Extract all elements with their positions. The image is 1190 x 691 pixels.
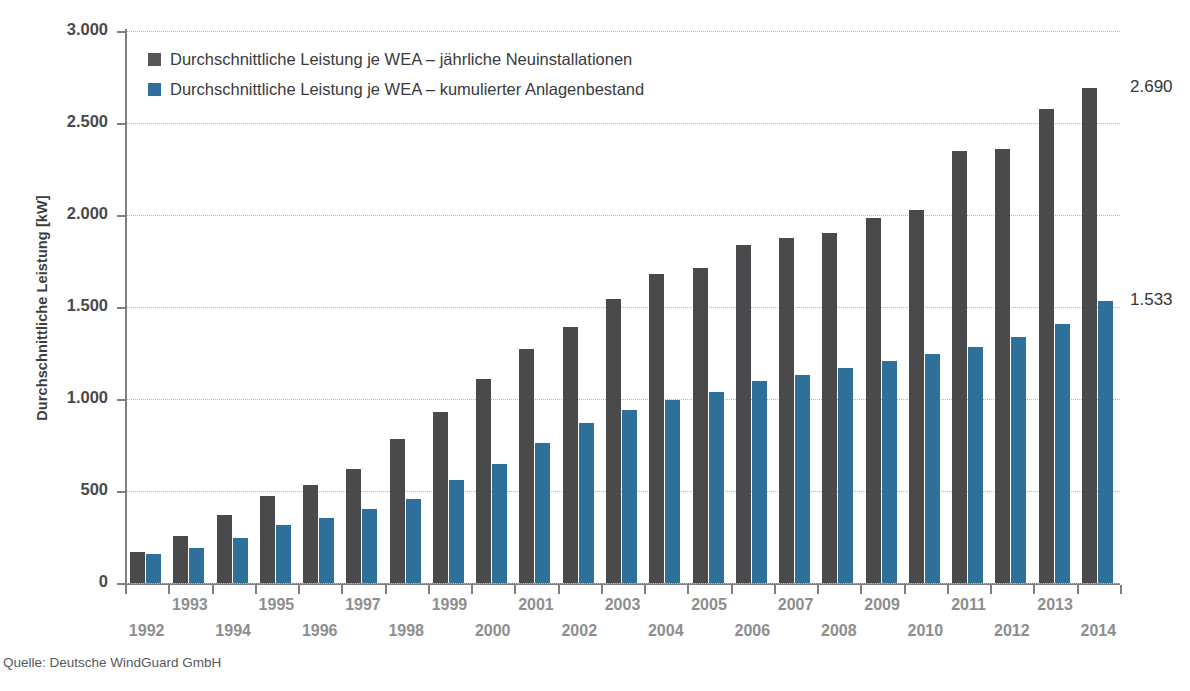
x-axis-tick-label: 2009 [842, 596, 922, 614]
y-axis-tick-label: 1.000 [18, 388, 108, 407]
y-axis-tick-label: 0 [18, 572, 108, 591]
y-axis-tick-label: 2.500 [18, 112, 108, 131]
x-axis-tick-label: 1994 [193, 622, 273, 640]
bar-2004-series-1 [665, 400, 680, 583]
y-axis-tick-label: 2.000 [18, 204, 108, 223]
bar-2011-series-0 [952, 151, 967, 583]
bar-2007-series-0 [779, 238, 794, 583]
x-axis-tick-label: 2007 [756, 596, 836, 614]
source-note: Quelle: Deutsche WindGuard GmbH [3, 655, 221, 670]
y-axis-tick [117, 123, 126, 125]
x-axis-tick-label: 2008 [799, 622, 879, 640]
gridline [125, 215, 1120, 216]
y-axis-tick [117, 399, 126, 401]
x-axis-tick-label: 1996 [280, 622, 360, 640]
x-axis-tick [428, 585, 430, 594]
x-axis-tick [471, 585, 473, 594]
bar-1998-series-0 [390, 439, 405, 583]
x-axis-tick [644, 585, 646, 594]
bar-2010-series-1 [925, 354, 940, 583]
x-axis-tick [1077, 585, 1079, 594]
x-axis-tick-label: 2005 [669, 596, 749, 614]
bar-2008-series-0 [822, 233, 837, 583]
x-axis-tick-label: 2003 [583, 596, 663, 614]
gridline [125, 123, 1120, 124]
bar-2008-series-1 [838, 368, 853, 583]
bar-2000-series-1 [492, 464, 507, 583]
x-axis-tick [125, 585, 127, 594]
x-axis-tick-label: 2014 [1058, 622, 1138, 640]
bar-2011-series-1 [968, 347, 983, 583]
bar-2014-series-1 [1098, 301, 1113, 583]
x-axis-tick-label: 1992 [107, 622, 187, 640]
x-axis-tick [731, 585, 733, 594]
y-axis-tick [117, 307, 126, 309]
x-axis-tick-label: 2002 [539, 622, 619, 640]
legend-label-series-0: Durchschnittliche Leistung je WEA – jähr… [170, 50, 632, 69]
y-axis-tick-label: 1.500 [18, 296, 108, 315]
x-axis-tick [817, 585, 819, 594]
bar-2005-series-0 [693, 268, 708, 583]
chart-container: Durchschnittliche Leistung [kW] 3.0002.5… [0, 0, 1190, 691]
bar-2000-series-0 [476, 379, 491, 583]
x-axis-tick-label: 2004 [626, 622, 706, 640]
x-axis-tick [860, 585, 862, 594]
y-axis-tick [117, 215, 126, 217]
bar-2013-series-1 [1055, 324, 1070, 583]
bar-2003-series-1 [622, 410, 637, 584]
bar-2001-series-1 [535, 443, 550, 583]
bar-1996-series-0 [303, 485, 318, 583]
x-axis-tick [1120, 585, 1122, 594]
y-axis-tick-label: 500 [18, 480, 108, 499]
x-axis-tick-label: 2001 [496, 596, 576, 614]
x-axis-tick-label: 2012 [972, 622, 1052, 640]
legend-item-neuinstallationen: Durchschnittliche Leistung je WEA – jähr… [148, 44, 644, 74]
value-label-2014-series-0: 2.690 [1130, 77, 1173, 97]
x-axis-tick [298, 585, 300, 594]
x-axis-tick [990, 585, 992, 594]
bar-1995-series-0 [260, 496, 275, 583]
bar-2001-series-0 [519, 349, 534, 583]
bar-2005-series-1 [709, 392, 724, 583]
x-axis-tick [1033, 585, 1035, 594]
legend-swatch-icon-series-1 [148, 83, 161, 96]
bar-2007-series-1 [795, 375, 810, 583]
bar-2002-series-1 [579, 423, 594, 583]
x-axis-tick [558, 585, 560, 594]
value-label-2014-series-1: 1.533 [1130, 290, 1173, 310]
bar-2003-series-0 [606, 299, 621, 583]
x-axis-tick [774, 585, 776, 594]
bar-1993-series-1 [189, 548, 204, 583]
legend-item-anlagenbestand: Durchschnittliche Leistung je WEA – kumu… [148, 74, 644, 104]
bar-1995-series-1 [276, 525, 291, 583]
bar-1997-series-0 [346, 469, 361, 583]
bar-2002-series-0 [563, 327, 578, 583]
x-axis-tick [601, 585, 603, 594]
bar-2014-series-0 [1082, 88, 1097, 583]
x-axis-tick-label: 1999 [409, 596, 489, 614]
bar-2009-series-0 [866, 218, 881, 583]
x-axis-tick [168, 585, 170, 594]
y-axis-tick-label: 3.000 [18, 20, 108, 39]
x-axis-tick [385, 585, 387, 594]
x-axis-tick-label: 1993 [150, 596, 230, 614]
x-axis-tick [947, 585, 949, 594]
x-axis-tick [212, 585, 214, 594]
bar-2012-series-1 [1011, 337, 1026, 583]
gridline [125, 31, 1120, 32]
bar-1998-series-1 [406, 499, 421, 583]
gridline [125, 583, 1120, 584]
bar-2006-series-1 [752, 381, 767, 583]
bar-1994-series-1 [233, 538, 248, 583]
x-axis-tick-label: 2006 [712, 622, 792, 640]
x-axis-tick-label: 1998 [366, 622, 446, 640]
plot-area [125, 31, 1120, 583]
x-axis-tick-label: 2010 [885, 622, 965, 640]
x-axis-tick-label: 1995 [236, 596, 316, 614]
bar-1997-series-1 [362, 509, 377, 583]
x-axis-tick [687, 585, 689, 594]
legend-label-series-1: Durchschnittliche Leistung je WEA – kumu… [170, 80, 644, 99]
x-axis-tick-label: 2000 [453, 622, 533, 640]
bar-1999-series-1 [449, 480, 464, 583]
x-axis-tick [255, 585, 257, 594]
